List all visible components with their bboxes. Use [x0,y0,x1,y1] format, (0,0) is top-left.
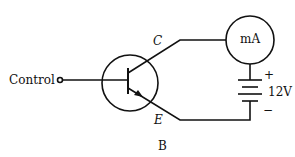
emitter-arrow-icon [134,90,143,97]
emitter-label: E [154,114,163,126]
battery-plus-label: + [264,69,274,81]
meter-label: mA [240,33,260,45]
collector-label: C [153,35,162,47]
battery-minus-label: − [263,104,273,116]
control-terminal-icon [58,78,63,83]
battery-voltage-label: 12V [268,86,292,98]
figure-caption: B [158,140,167,152]
transistor-envelope [102,55,158,111]
collector-wire [128,40,226,73]
emitter-wire [128,88,250,120]
control-label: Control [9,74,55,86]
